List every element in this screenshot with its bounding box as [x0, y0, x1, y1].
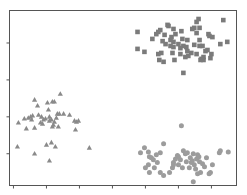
data-point-square — [157, 58, 162, 63]
data-point-square — [156, 30, 161, 35]
data-point-square — [165, 23, 170, 28]
data-point-square — [192, 43, 197, 48]
data-point-triangle — [58, 91, 63, 96]
data-point-circle — [151, 157, 156, 162]
data-point-square — [194, 52, 199, 57]
data-point-circle — [226, 149, 231, 154]
data-point-triangle — [53, 144, 58, 149]
data-point-circle — [178, 157, 183, 162]
data-point-square — [184, 45, 189, 50]
data-point-square — [163, 42, 168, 47]
data-point-square — [142, 50, 147, 55]
data-point-circle — [218, 148, 223, 153]
data-point-square — [135, 47, 140, 52]
data-point-square — [218, 42, 223, 47]
data-point-circle — [210, 162, 215, 167]
scatter-chart — [0, 0, 247, 195]
data-point-triangle — [15, 144, 20, 149]
data-point-circle — [180, 165, 185, 170]
data-point-square — [181, 71, 186, 76]
data-point-triangle — [47, 114, 52, 119]
data-point-square — [197, 44, 202, 49]
data-point-square — [150, 37, 155, 42]
data-point-circle — [193, 166, 198, 171]
data-point-triangle — [35, 103, 40, 108]
data-point-triangle — [24, 126, 29, 131]
data-point-triangle — [67, 112, 72, 117]
data-point-square — [168, 38, 173, 43]
data-point-circle — [161, 141, 166, 146]
data-point-circle — [147, 170, 152, 175]
data-point-square — [208, 56, 213, 61]
data-point-triangle — [47, 158, 52, 163]
data-point-triangle — [56, 124, 61, 129]
data-point-square — [210, 35, 215, 40]
data-point-triangle — [87, 145, 92, 150]
data-point-triangle — [49, 140, 54, 145]
data-point-square — [194, 31, 199, 36]
data-point-square — [176, 42, 181, 47]
data-point-circle — [198, 170, 203, 175]
data-point-triangle — [16, 120, 21, 125]
data-point-circle — [171, 162, 176, 167]
data-point-circle — [147, 154, 152, 159]
data-point-circle — [167, 170, 172, 175]
data-point-square — [185, 38, 190, 43]
data-point-circle — [183, 151, 188, 156]
data-point-square — [135, 30, 140, 35]
data-point-square — [171, 45, 176, 50]
data-point-triangle — [22, 116, 27, 121]
data-point-circle — [161, 173, 166, 178]
data-point-square — [161, 60, 166, 65]
data-point-circle — [155, 160, 160, 165]
data-point-square — [192, 26, 197, 31]
data-point-circle — [179, 123, 184, 128]
data-point-square — [197, 26, 202, 31]
data-point-square — [180, 37, 185, 42]
data-point-circle — [202, 164, 207, 169]
data-point-circle — [196, 154, 201, 159]
data-point-triangle — [54, 115, 59, 120]
data-point-triangle — [32, 97, 37, 102]
data-point-triangle — [45, 100, 50, 105]
plot-points — [15, 17, 231, 185]
data-point-triangle — [32, 125, 37, 130]
data-point-square — [225, 40, 230, 45]
data-point-square — [178, 46, 183, 51]
data-point-square — [197, 38, 202, 43]
data-point-square — [156, 52, 161, 57]
data-point-triangle — [73, 127, 78, 132]
data-point-square — [201, 58, 206, 63]
data-point-square — [178, 52, 183, 57]
data-point-square — [171, 27, 176, 32]
data-point-square — [170, 51, 175, 56]
data-point-circle — [176, 162, 181, 167]
data-point-square — [205, 48, 210, 53]
data-point-circle — [191, 179, 196, 184]
data-point-square — [221, 18, 226, 23]
data-point-circle — [187, 165, 192, 170]
data-point-circle — [175, 153, 180, 158]
data-point-square — [196, 17, 201, 22]
data-point-circle — [138, 150, 143, 155]
data-point-circle — [184, 159, 189, 164]
data-point-square — [179, 29, 184, 34]
data-point-circle — [146, 149, 151, 154]
plot-frame — [10, 11, 237, 186]
data-point-triangle — [32, 151, 37, 156]
data-point-circle — [154, 152, 159, 157]
data-point-circle — [143, 165, 148, 170]
data-point-circle — [191, 151, 196, 156]
data-point-square — [162, 33, 167, 38]
data-point-triangle — [46, 107, 51, 112]
data-point-circle — [204, 155, 209, 160]
data-point-triangle — [61, 111, 66, 116]
data-point-square — [173, 32, 178, 37]
data-point-square — [172, 58, 177, 63]
data-point-circle — [152, 165, 157, 170]
data-point-square — [189, 51, 194, 56]
data-point-circle — [207, 171, 212, 176]
data-point-circle — [142, 145, 147, 150]
data-point-square — [209, 52, 214, 57]
data-point-square — [185, 49, 190, 54]
